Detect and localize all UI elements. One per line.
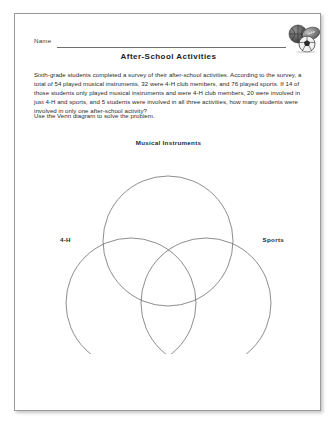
name-row: Name: [34, 37, 286, 51]
venn-label-musical-instruments: Musical Instruments: [27, 139, 310, 146]
problem-statement: Sixth-grade students completed a survey …: [34, 70, 302, 115]
name-write-in-line[interactable]: [57, 47, 286, 48]
venn-diagram: Musical Instruments 4-H Sports: [27, 139, 310, 354]
venn-label-sports: Sports: [263, 236, 284, 243]
venn-label-4h: 4-H: [60, 236, 71, 243]
problem-instruction: Use the Venn diagram to solve the proble…: [34, 111, 302, 120]
musical-instruments-circle: [103, 176, 233, 306]
sports-balls-icon: [285, 23, 321, 53]
four-h-circle: [66, 238, 196, 354]
worksheet-page: Name: [14, 13, 321, 411]
page-title: After-School Activities: [15, 52, 322, 61]
name-label: Name: [34, 37, 51, 44]
sports-circle: [141, 238, 271, 354]
